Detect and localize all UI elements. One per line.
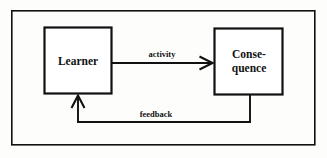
node-consequence-label-line2: quence — [232, 62, 267, 75]
feedback-edge-label: feedback — [140, 109, 173, 119]
activity-edge-label: activity — [149, 49, 177, 59]
feedback-loop-diagram: Learner Conse- quence activity feedback — [0, 0, 327, 158]
node-consequence-label-line1: Conse- — [232, 48, 266, 60]
node-learner-label: Learner — [58, 55, 98, 67]
diagram-canvas-root: Learner Conse- quence activity feedback — [0, 0, 327, 158]
